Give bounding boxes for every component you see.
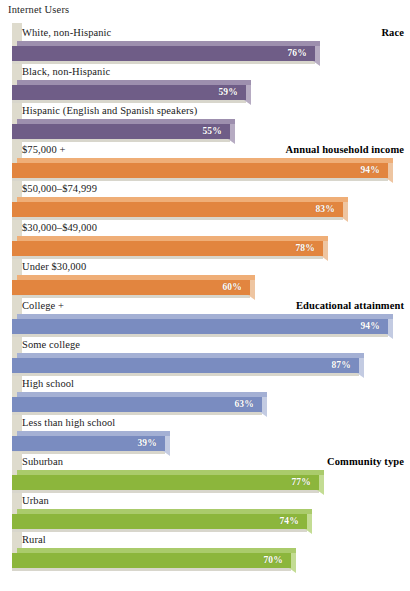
bar: 74%: [12, 509, 312, 532]
group-title: Community type: [327, 455, 404, 468]
bar-shadow: [12, 61, 315, 64]
bar-shadow: [12, 451, 165, 454]
bar-category-label: Hispanic (English and Spanish speakers): [22, 104, 197, 117]
bar-front-face: [12, 241, 323, 256]
bar-value-label: 78%: [295, 242, 315, 255]
bar: 70%: [12, 548, 296, 571]
bar-value-label: 59%: [218, 86, 238, 99]
bar-category-label: Under $30,000: [22, 260, 86, 273]
bar-front-face: [12, 358, 359, 373]
bar-category-label: Less than high school: [22, 416, 115, 429]
bar-front-face: [12, 124, 230, 139]
bar-front-face: [12, 46, 315, 61]
bar-front-face: [12, 85, 246, 100]
bar: 94%: [12, 158, 393, 181]
bar-value-label: 55%: [202, 125, 222, 138]
bar-value-label: 76%: [287, 47, 307, 60]
bar: 63%: [12, 392, 267, 415]
bar-value-label: 74%: [279, 515, 299, 528]
bar-shadow: [12, 334, 388, 337]
internet-users-bar-chart: Internet Users White, non-HispanicRace76…: [0, 0, 410, 591]
bar-shadow: [12, 178, 388, 181]
bar-front-face: [12, 202, 343, 217]
bar-category-label: Black, non-Hispanic: [22, 65, 110, 78]
bar: 59%: [12, 80, 251, 103]
bar-value-label: 77%: [291, 476, 311, 489]
bar: 60%: [12, 275, 255, 298]
bar: 76%: [12, 41, 320, 64]
bar-front-face: [12, 475, 319, 490]
bar-front-face: [12, 319, 388, 334]
bar-category-label: $50,000–$74,999: [22, 182, 97, 195]
bar-value-label: 87%: [331, 359, 351, 372]
bar-shadow: [12, 568, 291, 571]
bar-front-face: [12, 397, 262, 412]
bar-category-label: $75,000 +: [22, 143, 66, 156]
bar: 94%: [12, 314, 393, 337]
bar-value-label: 39%: [137, 437, 157, 450]
group-title: Annual household income: [286, 143, 404, 156]
bar-value-label: 94%: [360, 164, 380, 177]
bar: 77%: [12, 470, 324, 493]
bar-shadow: [12, 490, 319, 493]
bar-category-label: Rural: [22, 533, 46, 546]
bar-value-label: 94%: [360, 320, 380, 333]
bar-shadow: [12, 139, 230, 142]
bar-front-face: [12, 163, 388, 178]
bar-category-label: White, non-Hispanic: [22, 26, 111, 39]
bar-front-face: [12, 280, 250, 295]
bar-front-face: [12, 553, 291, 568]
bar-shadow: [12, 529, 307, 532]
bar-shadow: [12, 295, 250, 298]
bar: 87%: [12, 353, 364, 376]
group-title: Educational attainment: [296, 299, 404, 312]
bar: 39%: [12, 431, 170, 454]
bar-category-label: Some college: [22, 338, 80, 351]
bar-value-label: 60%: [222, 281, 242, 294]
bar-shadow: [12, 217, 343, 220]
bar-shadow: [12, 373, 359, 376]
bar-category-label: High school: [22, 377, 74, 390]
bar-category-label: Urban: [22, 494, 49, 507]
bar-value-label: 83%: [315, 203, 335, 216]
bar-value-label: 70%: [263, 554, 283, 567]
bar: 83%: [12, 197, 348, 220]
group-title: Race: [381, 26, 404, 39]
bar-shadow: [12, 412, 262, 415]
chart-title: Internet Users: [8, 4, 69, 15]
bar-value-label: 63%: [234, 398, 254, 411]
bar-category-label: College +: [22, 299, 64, 312]
bar-category-label: Suburban: [22, 455, 63, 468]
bar-category-label: $30,000–$49,000: [22, 221, 97, 234]
bar-front-face: [12, 514, 307, 529]
bar-shadow: [12, 256, 323, 259]
bar: 78%: [12, 236, 328, 259]
bar: 55%: [12, 119, 235, 142]
bar-shadow: [12, 100, 246, 103]
